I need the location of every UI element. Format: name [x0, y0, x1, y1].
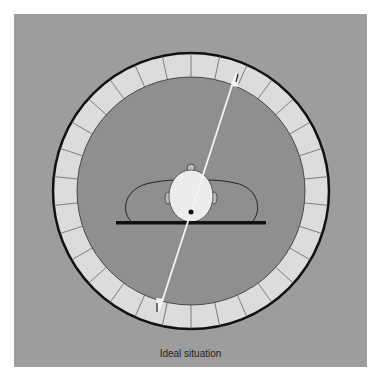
ring-diagram: [0, 0, 383, 379]
caption: Ideal situation: [14, 348, 367, 359]
table-bar: [116, 221, 266, 225]
center-dot: [189, 210, 194, 215]
